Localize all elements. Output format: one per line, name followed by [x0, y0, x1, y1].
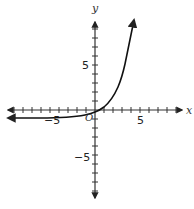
- x-tick-label-5: 5: [137, 114, 144, 127]
- coordinate-plane: y x −5 5 5 −5 O: [0, 0, 194, 209]
- x-axis-label: x: [186, 104, 193, 117]
- exponential-curve: [8, 20, 134, 118]
- y-tick-label-5: 5: [82, 59, 89, 72]
- origin-label: O: [85, 112, 93, 123]
- x-tick-label-neg5: −5: [44, 114, 60, 127]
- graph-figure: y x −5 5 5 −5 O: [0, 0, 194, 209]
- y-axis-label: y: [91, 2, 99, 15]
- y-tick-label-neg5: −5: [74, 151, 90, 164]
